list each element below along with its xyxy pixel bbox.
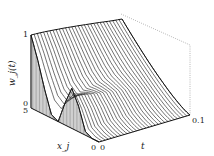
t-tick-start: 0 [100,144,105,152]
x-tick-near: 0 [91,144,96,152]
time-curve [50,31,118,137]
t-axis-title: t [141,142,145,151]
x-tick-far: 5 [23,107,28,115]
surface-plot [0,0,214,156]
surface-edges [31,19,190,142]
t-tick-end: 0.1 [192,117,205,125]
x-axis-title: x_j [57,142,69,151]
z-tick-top: 1 [23,31,28,39]
time-curves [31,19,190,142]
z-axis-title: w_j(t) [8,60,17,86]
